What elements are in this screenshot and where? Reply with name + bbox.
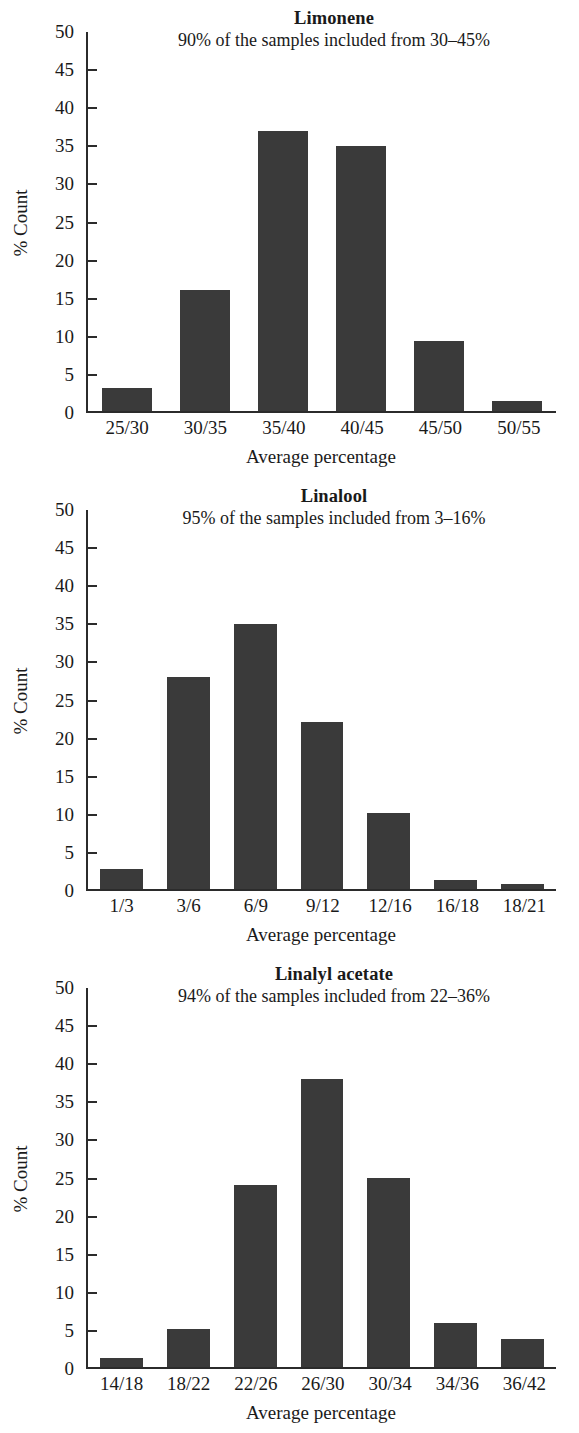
bar[interactable] [167, 677, 210, 889]
bar[interactable] [336, 146, 386, 411]
chart-panel-linalyl-acetate: Linalyl acetate 94% of the samples inclu… [0, 956, 579, 1433]
x-axis-line [86, 1367, 556, 1369]
bar[interactable] [234, 624, 277, 889]
chart-title: Linalool [95, 486, 573, 508]
y-axis-tick-label: 35 [55, 613, 74, 635]
chart-panel-limonene: Limonene 90% of the samples included fro… [0, 0, 579, 478]
x-axis-tick-label: 26/30 [289, 1373, 356, 1395]
x-axis-tick-label: 12/16 [357, 895, 424, 917]
bar[interactable] [102, 388, 152, 411]
y-axis-tick-label: 35 [55, 135, 74, 157]
chart-title: Limonene [95, 8, 573, 30]
x-axis-tick-label: 45/50 [401, 417, 479, 439]
bar-slot [88, 510, 155, 889]
x-axis-tick-label: 30/34 [357, 1373, 424, 1395]
bar-slot [422, 510, 489, 889]
y-axis-title-text: % Count [10, 667, 32, 734]
bar[interactable] [492, 401, 542, 411]
x-axis-tick-label: 18/22 [155, 1373, 222, 1395]
x-tick-label-group: 14/1818/2222/2626/3030/3434/3636/42 [88, 1373, 558, 1395]
bar-slot [244, 32, 322, 411]
y-axis-tick-label: 15 [55, 1244, 74, 1266]
bar-slot [222, 988, 289, 1367]
bar-slot [155, 510, 222, 889]
bar[interactable] [301, 722, 344, 889]
bar-slot [289, 988, 356, 1367]
x-axis-tick-label: 3/6 [155, 895, 222, 917]
x-axis-title: Average percentage [86, 1402, 556, 1424]
figure-page: Limonene 90% of the samples included fro… [0, 0, 579, 1433]
bar[interactable] [234, 1185, 277, 1367]
y-axis-tick-label: 15 [55, 288, 74, 310]
bar[interactable] [367, 813, 410, 889]
bar-slot [88, 32, 166, 411]
y-axis-tick-label: 45 [55, 59, 74, 81]
y-axis-tick-label: 25 [55, 690, 74, 712]
y-axis-tick-label: 30 [55, 1129, 74, 1151]
bar-group [88, 988, 556, 1367]
bar-slot [489, 510, 556, 889]
y-axis-tick-label: 40 [55, 1053, 74, 1075]
bar[interactable] [301, 1079, 344, 1367]
x-axis-tick-label: 6/9 [222, 895, 289, 917]
bar-slot [489, 988, 556, 1367]
x-axis-tick-label: 30/35 [166, 417, 244, 439]
bar[interactable] [434, 880, 477, 889]
x-axis-tick-label: 16/18 [424, 895, 491, 917]
bar-slot [355, 988, 422, 1367]
x-axis-tick-label: 18/21 [491, 895, 558, 917]
plot-area: 50454035302520151050 [86, 988, 556, 1369]
y-axis-title: % Count [8, 510, 34, 891]
bar-slot [355, 510, 422, 889]
plot-area: 50454035302520151050 [86, 32, 556, 413]
x-axis-tick-label: 50/55 [480, 417, 558, 439]
y-axis-tick-label: 5 [65, 842, 75, 864]
y-axis-title-text: % Count [10, 189, 32, 256]
y-axis-tick-label: 10 [55, 326, 74, 348]
y-axis-tick-label: 10 [55, 1282, 74, 1304]
x-axis-tick-label: 25/30 [88, 417, 166, 439]
bar[interactable] [501, 1339, 544, 1367]
bar-slot [322, 32, 400, 411]
bar-group [88, 510, 556, 889]
bar-slot [422, 988, 489, 1367]
y-axis-tick-label: 15 [55, 766, 74, 788]
chart-title: Linalyl acetate [95, 964, 573, 986]
bar-group [88, 32, 556, 411]
y-axis-tick-label: 30 [55, 651, 74, 673]
bar[interactable] [100, 1358, 143, 1367]
x-axis-line [86, 411, 556, 413]
y-axis-tick-label: 0 [65, 1358, 75, 1380]
x-axis-tick-label: 35/40 [245, 417, 323, 439]
bar[interactable] [414, 341, 464, 411]
y-axis-tick-label: 50 [55, 21, 74, 43]
y-axis-title: % Count [8, 32, 34, 413]
x-axis-tick-label: 36/42 [491, 1373, 558, 1395]
bar[interactable] [434, 1323, 477, 1367]
y-axis-title: % Count [8, 988, 34, 1369]
bar[interactable] [180, 290, 230, 411]
y-axis-tick-label: 20 [55, 1206, 74, 1228]
bar-slot [289, 510, 356, 889]
x-tick-label-group: 1/33/66/99/1212/1616/1818/21 [88, 895, 558, 917]
x-axis-tick-label: 1/3 [88, 895, 155, 917]
x-axis-line [86, 889, 556, 891]
x-axis-tick-label: 14/18 [88, 1373, 155, 1395]
bar[interactable] [258, 131, 308, 411]
y-axis-tick-label: 0 [65, 402, 75, 424]
bar[interactable] [167, 1329, 210, 1367]
y-axis-tick-label: 50 [55, 499, 74, 521]
y-axis-tick-label: 50 [55, 977, 74, 999]
y-axis-title-text: % Count [10, 1145, 32, 1212]
bar[interactable] [100, 869, 143, 889]
y-axis-tick-label: 5 [65, 364, 75, 386]
x-axis-tick-label: 22/26 [222, 1373, 289, 1395]
bar[interactable] [501, 884, 544, 889]
plot-area: 50454035302520151050 [86, 510, 556, 891]
x-tick-label-group: 25/3030/3535/4040/4545/5050/55 [88, 417, 558, 439]
x-axis-tick-label: 9/12 [289, 895, 356, 917]
chart-panel-linalool: Linalool 95% of the samples included fro… [0, 478, 579, 956]
y-axis-tick-label: 25 [55, 1168, 74, 1190]
x-axis-title: Average percentage [86, 446, 556, 468]
bar[interactable] [367, 1178, 410, 1368]
